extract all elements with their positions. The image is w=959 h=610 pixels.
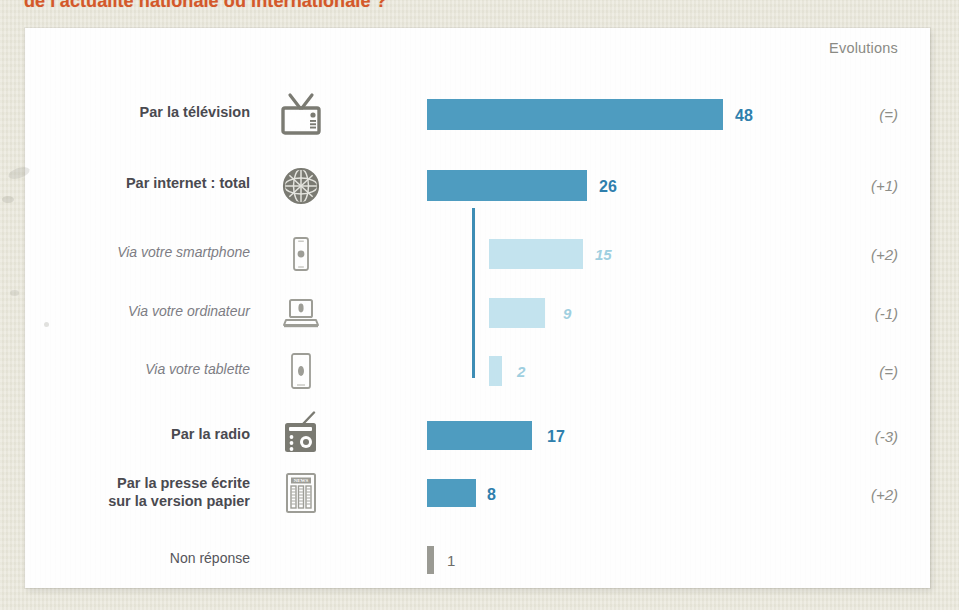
row-label-presse-ecrite-line2: sur la version papier (25, 493, 250, 511)
bar-radio (427, 421, 532, 450)
evolutions-column-header: Evolutions (829, 40, 898, 56)
bar-value-internet-total: 26 (599, 179, 617, 195)
row-label-smartphone: Via votre smartphone (25, 244, 250, 261)
bar-non-reponse (427, 546, 434, 574)
evolution-tablette: (=) (808, 363, 898, 380)
evolution-smartphone: (+2) (808, 246, 898, 263)
chart-row-non-reponse: Non réponse 1 (25, 540, 930, 580)
laptop-icon (277, 290, 325, 336)
row-label-television: Par la télévision (25, 104, 250, 122)
row-label-radio: Par la radio (25, 426, 250, 444)
evolution-television: (=) (808, 106, 898, 123)
chart-card: Evolutions Par la télévision 48 (=) Par (25, 28, 930, 588)
bar-ordinateur (489, 298, 545, 328)
chart-row-tablette: Via votre tablette 2 (=) (25, 348, 930, 394)
bar-value-ordinateur: 9 (563, 306, 571, 321)
scan-artifact (10, 290, 19, 296)
row-label-internet-total: Par internet : total (25, 175, 250, 193)
svg-text:NEWS: NEWS (294, 478, 309, 483)
television-icon (273, 90, 329, 140)
bar-value-tablette: 2 (517, 364, 525, 379)
evolution-internet-total: (+1) (808, 177, 898, 194)
globe-icon (273, 161, 329, 211)
smartphone-icon (280, 231, 322, 277)
row-label-non-reponse: Non réponse (25, 550, 250, 567)
chart-row-internet-total: Par internet : total 26 (+1) (25, 161, 930, 211)
bar-value-television: 48 (735, 108, 753, 124)
bar-television (427, 99, 723, 130)
row-label-presse-ecrite: Par la presse écrite sur la version papi… (25, 475, 250, 510)
bar-internet-total (427, 170, 587, 201)
scan-artifact (2, 196, 14, 203)
chart-headline: de l'actualité nationale ou internationa… (24, 0, 387, 12)
chart-row-smartphone: Via votre smartphone 15 (+2) (25, 231, 930, 277)
row-label-presse-ecrite-line1: Par la presse écrite (25, 475, 250, 493)
bar-tablette (489, 356, 502, 386)
row-label-tablette: Via votre tablette (25, 361, 250, 378)
chart-row-radio: Par la radio 17 (-3) (25, 410, 930, 460)
bar-value-radio: 17 (547, 429, 565, 445)
evolution-presse-ecrite: (+2) (808, 486, 898, 503)
bar-value-smartphone: 15 (595, 247, 612, 262)
newspaper-icon: NEWS (275, 467, 327, 519)
evolution-radio: (-3) (808, 428, 898, 445)
chart-row-television: Par la télévision 48 (=) (25, 90, 930, 140)
bar-value-non-reponse: 1 (447, 553, 455, 568)
evolution-ordinateur: (-1) (808, 305, 898, 322)
chart-row-presse-ecrite: Par la presse écrite sur la version papi… (25, 465, 930, 521)
bar-smartphone (489, 239, 583, 269)
bar-value-presse-ecrite: 8 (487, 487, 496, 503)
chart-row-ordinateur: Via votre ordinateur 9 (-1) (25, 290, 930, 336)
row-label-ordinateur: Via votre ordinateur (25, 303, 250, 320)
bar-presse-ecrite (427, 479, 476, 507)
tablet-icon (280, 348, 322, 394)
radio-icon (273, 410, 329, 460)
